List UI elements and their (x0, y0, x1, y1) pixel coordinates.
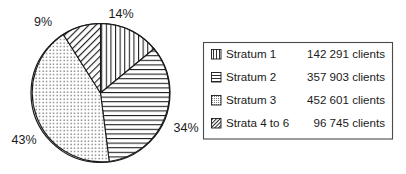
legend-value-strata-4-to-6: 96 745 clients (313, 116, 385, 129)
pie-chart-figure: 14% 34% 43% 9% Stratum 1 142 291 clients… (0, 0, 406, 174)
legend-label-stratum-2: Stratum 2 (226, 70, 276, 83)
legend-swatch-horizontal-lines-icon (212, 73, 222, 83)
pie-label-stratum-1: 14% (108, 7, 133, 21)
legend-label-stratum-3: Stratum 3 (226, 93, 276, 106)
legend-value-stratum-1: 142 291 clients (307, 47, 385, 60)
legend-value-stratum-2: 357 903 clients (307, 70, 385, 83)
legend-swatch-vertical-lines-icon (212, 50, 222, 60)
pie-label-strata-4-to-6: 9% (34, 15, 52, 29)
legend-value-stratum-3: 452 601 clients (307, 93, 385, 106)
figure-canvas: 14% 34% 43% 9% Stratum 1 142 291 clients… (0, 0, 406, 174)
legend: Stratum 1 142 291 clients Stratum 2 357 … (204, 43, 393, 140)
legend-swatch-diagonal-hatch-icon (212, 119, 222, 129)
legend-swatch-dots-icon (212, 96, 222, 106)
pie-label-stratum-2: 34% (173, 121, 198, 135)
pie-label-stratum-3: 43% (11, 133, 36, 147)
legend-label-stratum-1: Stratum 1 (226, 47, 276, 60)
legend-label-strata-4-to-6: Strata 4 to 6 (226, 116, 289, 129)
